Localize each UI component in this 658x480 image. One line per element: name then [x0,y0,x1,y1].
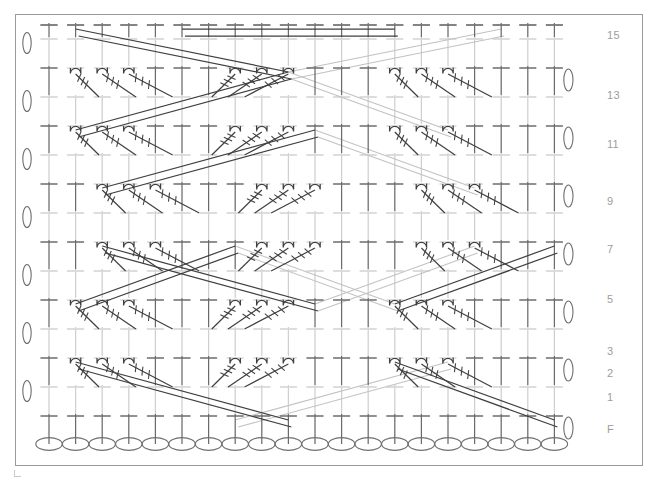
treble-crochet [41,124,58,153]
turning-chain-right [564,69,573,91]
treble-crochet [174,356,191,385]
treble-crochet [41,356,58,385]
treble-crochet [41,385,58,414]
post-bind-marks [454,305,468,321]
treble-crochet [200,298,217,327]
post-bind-marks [481,247,495,263]
treble-crochet [466,153,483,182]
turning-chain-right [564,359,573,381]
treble-crochet [174,124,191,153]
front-post-treble [97,184,126,214]
treble-crochet [386,95,403,124]
treble-crochet [360,124,377,153]
treble-crochet [493,385,510,414]
treble-crochet [546,153,563,182]
treble-crochet [360,211,377,240]
front-post-treble [416,126,455,156]
treble-crochet [360,356,377,385]
post-bind-marks [135,305,149,321]
treble-crochet [333,356,350,385]
post-bind-marks [454,131,468,147]
front-post-treble [150,242,199,272]
treble-crochet [440,95,457,124]
front-post-treble [124,300,173,330]
front-post-treble [443,184,482,214]
treble-crochet [174,298,191,327]
treble-crochet [493,37,510,66]
treble-crochet [360,240,377,269]
treble-crochet [466,211,483,240]
post-bind-marks [426,131,438,147]
treble-crochet [253,211,270,240]
front-post-treble [469,184,518,214]
treble-crochet [41,240,58,269]
treble-crochet [120,327,137,356]
treble-crochet [67,385,84,414]
turning-chain-left [23,265,31,286]
treble-crochet [147,153,164,182]
treble-crochet [386,182,403,211]
treble-crochet [307,66,324,95]
treble-crochet [360,414,377,444]
treble-crochet [94,327,111,356]
treble-crochet [466,414,483,444]
treble-crochet [333,298,350,327]
turning-chain-left [23,149,31,170]
treble-crochet [67,269,84,298]
post-bind-marks [291,249,311,262]
treble-crochet [493,66,510,95]
treble-crochet [413,385,430,414]
chart-layer-foreground [70,29,557,427]
turning-chain-left [23,33,31,54]
treble-crochet [280,327,297,356]
front-post-treble [416,68,455,98]
treble-crochet [360,327,377,356]
turning-chain-left [23,91,31,112]
post-bind-marks [104,190,115,205]
treble-crochet [333,269,350,298]
treble-crochet [546,95,563,124]
treble-crochet [386,327,403,356]
turning-chain-right [564,417,573,439]
front-post-treble [443,126,492,156]
front-post-treble [416,184,445,214]
treble-crochet [227,327,244,356]
treble-crochet [41,211,58,240]
front-post-treble [245,358,294,388]
front-post-treble [124,126,173,156]
treble-crochet [94,153,111,182]
post-bind-marks [423,248,434,263]
treble-crochet [519,356,536,385]
treble-crochet [200,356,217,385]
cable-band [235,362,451,427]
treble-crochet [67,211,84,240]
treble-crochet [360,37,377,66]
treble-crochet [227,95,244,124]
front-post-treble [228,358,267,388]
treble-crochet [174,327,191,356]
treble-crochet [147,414,164,444]
front-post-treble [212,68,241,98]
treble-crochet [360,385,377,414]
front-post-treble [443,68,492,98]
treble-crochet [120,95,137,124]
treble-crochet [440,327,457,356]
post-bind-marks [220,134,235,145]
treble-crochet [94,95,111,124]
treble-crochet [333,414,350,444]
treble-crochet [519,153,536,182]
treble-crochet [466,37,483,66]
front-post-treble [70,126,99,156]
chart-frame [15,14,643,466]
row-label-9: 9 [607,195,613,207]
treble-crochet [333,124,350,153]
treble-crochet [41,66,58,95]
row-label-11: 11 [607,138,619,150]
treble-crochet [41,182,58,211]
chart-layer-midground [41,23,563,444]
front-post-treble [238,184,267,214]
post-bind-marks [107,73,119,89]
treble-crochet [200,240,217,269]
post-bind-marks [162,247,176,263]
treble-crochet [440,269,457,298]
